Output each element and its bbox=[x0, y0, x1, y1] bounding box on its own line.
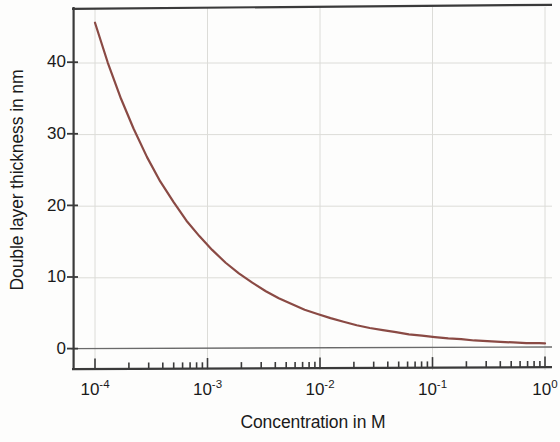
x-tick-label: 10-3 bbox=[193, 381, 222, 398]
y-axis-tick-labels: 0 10 20 30 40 bbox=[24, 7, 66, 370]
x-axis-tick-labels: 10-4 10-3 10-2 10-1 100 bbox=[0, 381, 560, 409]
y-tick-label: 20 bbox=[32, 196, 66, 213]
x-tick-label: 10-2 bbox=[305, 381, 334, 398]
y-tick-label: 10 bbox=[32, 268, 66, 285]
y-tick-label: 40 bbox=[32, 53, 66, 70]
x-tick-label: 10-4 bbox=[80, 381, 109, 398]
x-axis-spine bbox=[72, 367, 552, 369]
x-axis-title: Concentration in M bbox=[73, 412, 553, 433]
chart-page: Double layer thickness in nm 0 10 20 30 … bbox=[0, 0, 560, 442]
y-tick-label: 30 bbox=[32, 125, 66, 142]
plot-top-border bbox=[72, 5, 552, 9]
plot-area bbox=[73, 7, 552, 370]
y-tick-label: 0 bbox=[32, 339, 66, 356]
gridlines bbox=[73, 7, 552, 370]
x-tick-label: 10-1 bbox=[418, 381, 447, 398]
zero-line bbox=[71, 347, 552, 349]
x-tick-label: 100 bbox=[532, 381, 557, 398]
